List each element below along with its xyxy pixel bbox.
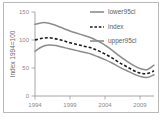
x-axis-ticks: 1994 1999 2004 2009 xyxy=(28,96,147,108)
y-tick-label: 150 xyxy=(19,9,30,15)
y-axis-title: Index 1994=100 xyxy=(9,30,16,77)
figure-container: 150 100 50 0 Index 1994=100 1994 1999 20… xyxy=(0,0,164,127)
x-tick-label: 1999 xyxy=(63,102,77,108)
y-tick-label: 0 xyxy=(26,93,30,99)
y-tick-label: 50 xyxy=(22,65,29,71)
y-axis-ticks: 150 100 50 0 xyxy=(19,9,35,99)
x-tick-label: 1994 xyxy=(28,102,42,108)
legend-label-upper95cl: upper95cl xyxy=(108,37,137,45)
legend-label-index: index xyxy=(108,23,124,30)
chart-frame: 150 100 50 0 Index 1994=100 1994 1999 20… xyxy=(3,2,159,113)
x-tick-label: 2004 xyxy=(98,102,112,108)
series-line-lower95cl xyxy=(35,23,154,70)
legend-label-lower95cl: lower95cl xyxy=(108,8,136,15)
figure-caption xyxy=(4,116,160,125)
x-tick-label: 2009 xyxy=(133,102,147,108)
y-tick-label: 100 xyxy=(19,37,30,43)
line-chart: 150 100 50 0 Index 1994=100 1994 1999 20… xyxy=(4,3,158,112)
